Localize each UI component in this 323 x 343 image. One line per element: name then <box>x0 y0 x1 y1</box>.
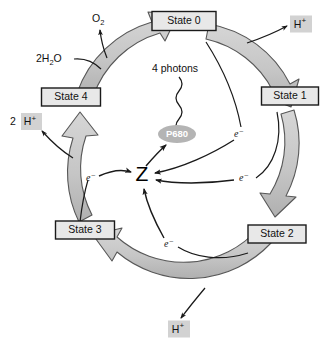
h-plus-top-right-charge: + <box>301 16 306 25</box>
electron-3-charge: − <box>169 237 174 246</box>
electron-2-charge: − <box>244 171 249 180</box>
state-box-state-4[interactable]: State 4 <box>42 88 101 106</box>
state-box-state-1[interactable]: State 1 <box>262 87 319 105</box>
h-plus-left-charge: + <box>31 114 36 123</box>
p680-label: P680 <box>166 128 188 139</box>
p680-node: P680 <box>158 125 196 143</box>
state-3-label: State 3 <box>68 223 101 235</box>
state-box-state-3[interactable]: State 3 <box>56 221 115 239</box>
electron-0-charge: − <box>91 171 96 180</box>
state-0-label: State 0 <box>167 14 200 26</box>
photons-label: 4 photons <box>152 62 198 74</box>
acceptor-z-label: Z <box>136 162 149 185</box>
state-box-state-0[interactable]: State 0 <box>152 12 216 31</box>
oxygen-subscript: 2 <box>100 18 104 27</box>
state-box-state-2[interactable]: State 2 <box>248 225 306 243</box>
h-plus-left-label: H <box>24 115 32 127</box>
state-1-label: State 1 <box>273 89 306 101</box>
oxygen-symbol: O <box>92 12 100 24</box>
state-4-label: State 4 <box>54 90 87 102</box>
state-2-label: State 2 <box>260 227 293 239</box>
h-plus-left-prefix: 2 <box>10 115 16 127</box>
badge-h-plus-top-right: H+ <box>290 16 312 33</box>
h-plus-bottom-label: H <box>172 322 180 334</box>
h-plus-bottom-charge: + <box>179 321 184 330</box>
h-plus-top-right-label: H <box>294 17 302 29</box>
s-state-cycle-diagram: P680 Z State 0 State 1 State 2 State 3 S… <box>0 0 323 343</box>
water-suffix: O <box>54 52 62 64</box>
electron-1-charge: − <box>239 127 244 136</box>
badge-h-plus-bottom: H+ <box>168 321 190 338</box>
water-prefix: 2H <box>36 52 49 64</box>
